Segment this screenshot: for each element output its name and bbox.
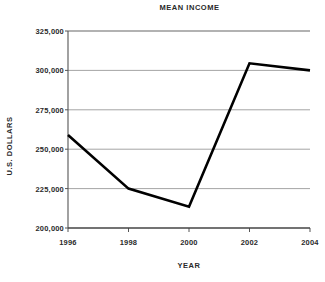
x-axis-tick-label: 2004 [290,238,325,247]
gridlines [65,31,310,228]
data-series-line [68,63,310,206]
x-axis-tick-label: 1996 [48,238,88,247]
x-axis-tick-label: 2000 [169,238,209,247]
x-axis-tick-label: 1998 [109,238,149,247]
mean-income-line-chart: MEAN INCOME U.S. DOLLARS 325,000300,0002… [0,0,325,282]
x-axis-tick-label: 2002 [230,238,270,247]
